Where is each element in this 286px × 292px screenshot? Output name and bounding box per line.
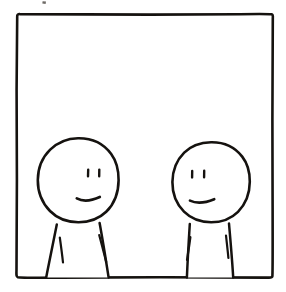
paper-background — [0, 0, 286, 292]
left-figure — [38, 138, 119, 277]
left-figure-head — [38, 138, 119, 222]
left-figure-body — [46, 214, 109, 278]
right-figure-body — [187, 214, 233, 278]
comic-panel-root: Two Figures In A Panel — [0, 0, 286, 292]
stray-ink-speck — [42, 1, 46, 4]
comic-illustration — [0, 0, 286, 292]
right-figure-head — [172, 142, 249, 222]
